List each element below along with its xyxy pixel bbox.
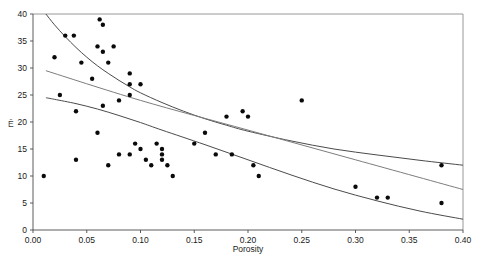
scatter-plot-figure: 0510152025303540 0.000.050.100.150.200.2… <box>0 0 490 263</box>
data-point <box>149 163 153 167</box>
data-point <box>97 17 101 21</box>
scatter-points <box>42 17 444 205</box>
plot-canvas: 0510152025303540 0.000.050.100.150.200.2… <box>0 0 490 263</box>
x-tick-label: 0.40 <box>455 235 472 245</box>
upper-confidence-curve <box>46 14 463 165</box>
fitted-curves <box>46 14 463 219</box>
data-point <box>154 141 158 145</box>
data-point <box>386 195 390 199</box>
data-point <box>160 147 164 151</box>
data-point <box>101 23 105 27</box>
data-point <box>375 195 379 199</box>
data-point <box>160 152 164 156</box>
data-point <box>79 60 83 64</box>
lower-confidence-curve <box>46 98 463 220</box>
data-point <box>95 131 99 135</box>
data-point <box>128 71 132 75</box>
data-point <box>138 82 142 86</box>
data-point <box>72 33 76 37</box>
y-tick-label: 10 <box>18 171 28 181</box>
y-tick-label: 40 <box>18 9 28 19</box>
x-axis-title: Porosity <box>233 244 264 254</box>
data-point <box>111 44 115 48</box>
y-tick-label: 30 <box>18 63 28 73</box>
data-point <box>171 174 175 178</box>
x-tick-label: 0.25 <box>293 235 310 245</box>
data-point <box>90 77 94 81</box>
x-tick-label: 0.00 <box>25 235 42 245</box>
y-tick-label: 20 <box>18 117 28 127</box>
y-tick-label: 5 <box>22 198 27 208</box>
y-tick-label: 15 <box>18 144 28 154</box>
data-point <box>133 141 137 145</box>
regression-line <box>46 71 463 190</box>
data-point <box>101 104 105 108</box>
y-axis-tick-labels: 0510152025303540 <box>18 9 28 235</box>
data-point <box>214 152 218 156</box>
data-point <box>246 114 250 118</box>
data-point <box>224 114 228 118</box>
data-point <box>251 163 255 167</box>
x-tick-label: 0.05 <box>78 235 95 245</box>
data-point <box>353 185 357 189</box>
y-axis-title: Ē <box>8 119 14 129</box>
data-point <box>144 158 148 162</box>
y-axis: 0510152025303540 <box>18 9 33 235</box>
x-tick-label: 0.15 <box>186 235 203 245</box>
x-tick-label: 0.10 <box>132 235 149 245</box>
data-point <box>117 98 121 102</box>
data-point <box>63 33 67 37</box>
y-tick-label: 35 <box>18 36 28 46</box>
x-tick-label: 0.35 <box>401 235 418 245</box>
data-point <box>128 152 132 156</box>
data-point <box>439 201 443 205</box>
data-point <box>117 152 121 156</box>
data-point <box>74 158 78 162</box>
y-tick-label: 25 <box>18 90 28 100</box>
data-point <box>106 60 110 64</box>
data-point <box>230 152 234 156</box>
data-point <box>106 163 110 167</box>
data-point <box>192 141 196 145</box>
data-point <box>240 109 244 113</box>
data-point <box>74 109 78 113</box>
data-point <box>300 98 304 102</box>
data-point <box>42 174 46 178</box>
data-point <box>257 174 261 178</box>
x-tick-label: 0.30 <box>347 235 364 245</box>
data-point <box>439 163 443 167</box>
y-tick-label: 0 <box>22 225 27 235</box>
data-point <box>95 44 99 48</box>
data-point <box>165 163 169 167</box>
data-point <box>138 147 142 151</box>
data-point <box>52 55 56 59</box>
data-point <box>101 50 105 54</box>
data-point <box>58 93 62 97</box>
data-point <box>128 82 132 86</box>
x-axis: 0.000.050.100.150.200.250.300.350.40 <box>25 230 472 245</box>
data-point <box>128 93 132 97</box>
data-point <box>203 131 207 135</box>
data-point <box>160 158 164 162</box>
